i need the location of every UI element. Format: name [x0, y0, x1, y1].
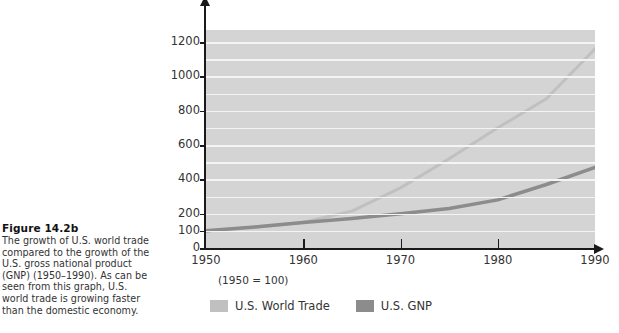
x-tick-label: 1990: [570, 253, 619, 267]
gridline: [206, 231, 595, 233]
line-us-gnp: [206, 167, 595, 231]
y-tick-mark: [200, 248, 204, 250]
x-axis-line: [204, 248, 596, 250]
x-tick-mark: [303, 239, 305, 248]
y-tick-mark: [200, 179, 204, 181]
chart-legend: U.S. World Trade U.S. GNP: [210, 299, 432, 313]
gridline: [206, 162, 595, 164]
gridline: [206, 42, 595, 44]
y-tick-label: 100: [156, 225, 200, 237]
gridline: [206, 214, 595, 216]
y-tick-mark: [200, 214, 204, 216]
plot-inner: [206, 30, 595, 248]
x-tick-mark: [401, 239, 403, 248]
gridline: [206, 94, 595, 96]
figure-caption: Figure 14.2b The growth of U.S. world tr…: [2, 222, 154, 316]
x-tick-mark: [498, 239, 500, 248]
legend-swatch-gnp: [356, 300, 374, 312]
y-tick-label: 800: [156, 105, 200, 117]
gridline: [206, 111, 595, 113]
x-tick-label: 1970: [376, 253, 426, 267]
y-tick-mark: [200, 145, 204, 147]
legend-item-world-trade: U.S. World Trade: [210, 299, 330, 313]
y-tick-mark: [200, 42, 204, 44]
chart-figure: 0100200400600800100012001950196019701980…: [160, 0, 619, 333]
y-tick-mark: [200, 231, 204, 233]
y-tick-label: 0: [156, 242, 200, 254]
gridline: [206, 179, 595, 181]
y-tick-mark: [200, 111, 204, 113]
x-tick-label: 1960: [278, 253, 328, 267]
y-tick-label: 1000: [156, 70, 200, 82]
y-tick-label: 400: [156, 173, 200, 185]
figure-caption-title: Figure 14.2b: [2, 222, 154, 234]
y-tick-mark: [200, 76, 204, 78]
legend-label-world-trade: U.S. World Trade: [235, 299, 330, 313]
y-axis-line: [204, 4, 206, 250]
y-tick-label: 1200: [156, 36, 200, 48]
legend-label-gnp: U.S. GNP: [381, 299, 432, 313]
gridline: [206, 76, 595, 78]
plot-area: [206, 30, 595, 248]
gridline: [206, 197, 595, 199]
y-tick-label: 600: [156, 139, 200, 151]
gridline: [206, 128, 595, 130]
y-axis-arrow-icon: [200, 0, 210, 6]
x-tick-label: 1980: [473, 253, 523, 267]
x-tick-label: 1950: [181, 253, 231, 267]
base-index-note: (1950 = 100): [218, 274, 288, 286]
legend-item-gnp: U.S. GNP: [356, 299, 432, 313]
figure-caption-body: The growth of U.S. world trade compared …: [2, 235, 154, 316]
series-layer: [206, 30, 595, 248]
gridline: [206, 145, 595, 147]
y-tick-label: 200: [156, 208, 200, 220]
legend-swatch-world-trade: [210, 300, 228, 312]
gridline: [206, 59, 595, 61]
